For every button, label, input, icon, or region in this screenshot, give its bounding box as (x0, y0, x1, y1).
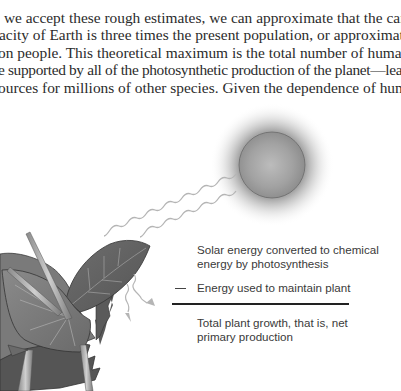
label-solar-line1: Solar energy converted to chemical (197, 243, 379, 257)
label-energy-maintain: Energy used to maintain plant (197, 281, 350, 295)
label-solar-energy: Solar energy converted to chemical energ… (197, 243, 379, 270)
plant-illustration (0, 232, 150, 391)
label-total-line2: primary production (197, 330, 348, 344)
photosynthesis-figure: Solar energy converted to chemical energ… (0, 0, 401, 391)
dash-marker (175, 288, 186, 289)
summation-rule (172, 303, 349, 305)
energy-loss-arrows-icon (125, 274, 155, 322)
label-total-line1: Total plant growth, that is, net (197, 316, 348, 330)
sun-icon (210, 103, 334, 227)
label-solar-line2: energy by photosynthesis (197, 257, 379, 271)
label-net-primary-production: Total plant growth, that is, net primary… (197, 316, 348, 343)
